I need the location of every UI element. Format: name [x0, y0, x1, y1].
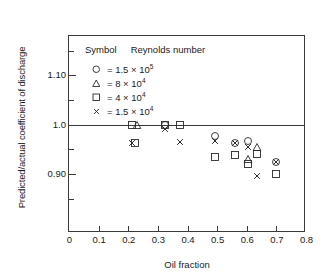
y-tick-major: 1.10	[69, 75, 76, 76]
legend-item-label: = 1.5 × 104	[107, 105, 153, 117]
data-point-square	[244, 160, 253, 169]
legend-entries: = 1.5 × 105 = 8 × 104 = 4 × 104 = 1.5 × …	[85, 62, 205, 118]
x-tick: 0.2	[128, 226, 129, 231]
data-point-cross	[254, 172, 262, 180]
y-tick-minor	[69, 51, 74, 52]
data-point-square	[230, 151, 239, 160]
data-point-square	[272, 169, 281, 178]
y-tick-label: 1.10	[48, 69, 67, 80]
square-icon	[85, 93, 107, 102]
x-tick-label: 0.8	[300, 234, 313, 245]
data-point-cross	[244, 143, 252, 151]
x-tick: 0.4	[188, 226, 189, 231]
x-tick: 0.5	[217, 226, 218, 231]
data-point-cross	[273, 158, 281, 166]
y-tick-major: 0.90	[69, 174, 76, 175]
plot-area: 1.101.00.90 00.10.20.30.40.50.60.70.8	[68, 35, 305, 232]
x-tick: 0.1	[99, 226, 100, 231]
circle-icon	[85, 65, 107, 74]
data-point-triangle	[253, 142, 262, 151]
data-point-circle	[272, 158, 281, 167]
reference-line-1.0	[69, 125, 304, 126]
y-tick-label: 1.0	[53, 119, 66, 130]
legend-item-square: = 4 × 104	[85, 90, 205, 104]
x-tick-label: 0.3	[152, 234, 165, 245]
x-axis-title: Oil fraction	[68, 259, 306, 270]
legend-item-cross: = 1.5 × 104	[85, 104, 205, 118]
data-point-cross	[128, 139, 136, 147]
legend-item-circle: = 1.5 × 105	[85, 62, 205, 76]
data-point-square	[130, 138, 139, 147]
legend-header-reynolds: Reynolds number	[131, 44, 205, 55]
x-tick: 0.6	[247, 226, 248, 231]
legend-header: Symbol Reynolds number	[85, 44, 205, 55]
triangle-icon	[85, 79, 107, 88]
y-tick-minor	[69, 199, 74, 200]
data-point-cross	[161, 125, 169, 133]
x-tick-label: 0.6	[241, 234, 254, 245]
legend-item-label: = 1.5 × 105	[107, 63, 153, 75]
y-tick-minor	[69, 149, 74, 150]
data-point-circle	[210, 131, 219, 140]
data-point-cross	[211, 137, 219, 145]
x-tick-label: 0.2	[122, 234, 135, 245]
y-tick-minor	[69, 100, 74, 101]
data-point-cross	[231, 139, 239, 147]
data-point-square	[210, 152, 219, 161]
legend-item-triangle: = 8 × 104	[85, 76, 205, 90]
data-point-square	[253, 150, 262, 159]
data-point-cross	[176, 138, 184, 146]
y-tick-label: 0.90	[48, 168, 67, 179]
x-tick-label: 0.5	[211, 234, 224, 245]
data-point-triangle	[244, 155, 253, 164]
x-tick-label: 0	[67, 234, 72, 245]
x-tick: 0.3	[158, 226, 159, 231]
chart-figure: Predicted/actual coefficient of discharg…	[0, 0, 333, 279]
data-point-circle	[244, 137, 253, 146]
legend-header-symbol: Symbol	[85, 44, 117, 55]
x-tick-label: 0.4	[181, 234, 194, 245]
legend-item-label: = 4 × 104	[107, 91, 146, 103]
cross-icon	[85, 108, 107, 115]
y-tick-major: 1.0	[69, 125, 76, 126]
legend-item-label: = 8 × 104	[107, 77, 146, 89]
y-axis-title: Predicted/actual coefficient of discharg…	[16, 23, 27, 233]
x-tick-label: 0.1	[93, 234, 106, 245]
x-tick-label: 0.7	[270, 234, 283, 245]
data-point-circle	[230, 139, 239, 148]
x-tick: 0.7	[276, 226, 277, 231]
legend: Symbol Reynolds number = 1.5 × 105 = 8 ×…	[85, 44, 205, 118]
